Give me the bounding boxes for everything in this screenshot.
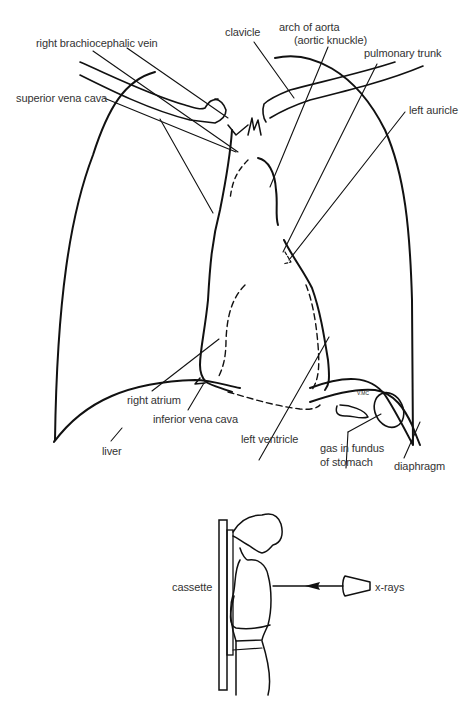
label-superior-vena-cava: superior vena cava — [16, 92, 107, 105]
label-gas-in-fundus: gas in fundus — [320, 442, 384, 455]
label-arch-of-aorta: arch of aorta — [279, 21, 339, 34]
label-pulmonary-trunk: pulmonary trunk — [364, 47, 441, 60]
mediastinum-top — [228, 118, 261, 135]
label-cassette: cassette — [172, 581, 212, 594]
label-inferior-vena-cava: inferior vena cava — [153, 413, 238, 426]
dashed-diaphragm — [228, 392, 320, 409]
patient-positioning-illustration — [219, 514, 370, 695]
label-left-auricle: left auricle — [409, 104, 458, 117]
label-left-ventricle: left ventricle — [241, 433, 298, 446]
left-heart-border-upper — [258, 158, 278, 225]
vmc-mark: V.MC — [357, 390, 369, 396]
dashed-left-auricle — [283, 252, 291, 264]
label-of-stomach: of stomach — [320, 456, 373, 469]
label-right-brachiocephalic-vein: right brachiocephalic vein — [36, 37, 158, 50]
label-clavicle: clavicle — [225, 26, 260, 39]
stomach-fold — [336, 405, 368, 418]
label-diaphragm: diaphragm — [394, 460, 445, 473]
dashed-right-atrium — [218, 285, 245, 378]
dashed-aorta — [230, 160, 248, 200]
label-aortic-knuckle: (aortic knuckle) — [294, 34, 367, 47]
xray-tube-cone — [343, 576, 370, 596]
chest-xray-outline-diagram: V.MC — [0, 0, 475, 711]
label-x-rays: x-rays — [375, 581, 404, 594]
cassette-board — [219, 520, 227, 690]
xray-arrowhead — [305, 582, 320, 590]
left-clavicle-lower — [270, 66, 423, 118]
label-right-atrium: right atrium — [127, 394, 181, 407]
label-liver: liver — [102, 445, 122, 458]
right-heart-border — [200, 130, 232, 392]
